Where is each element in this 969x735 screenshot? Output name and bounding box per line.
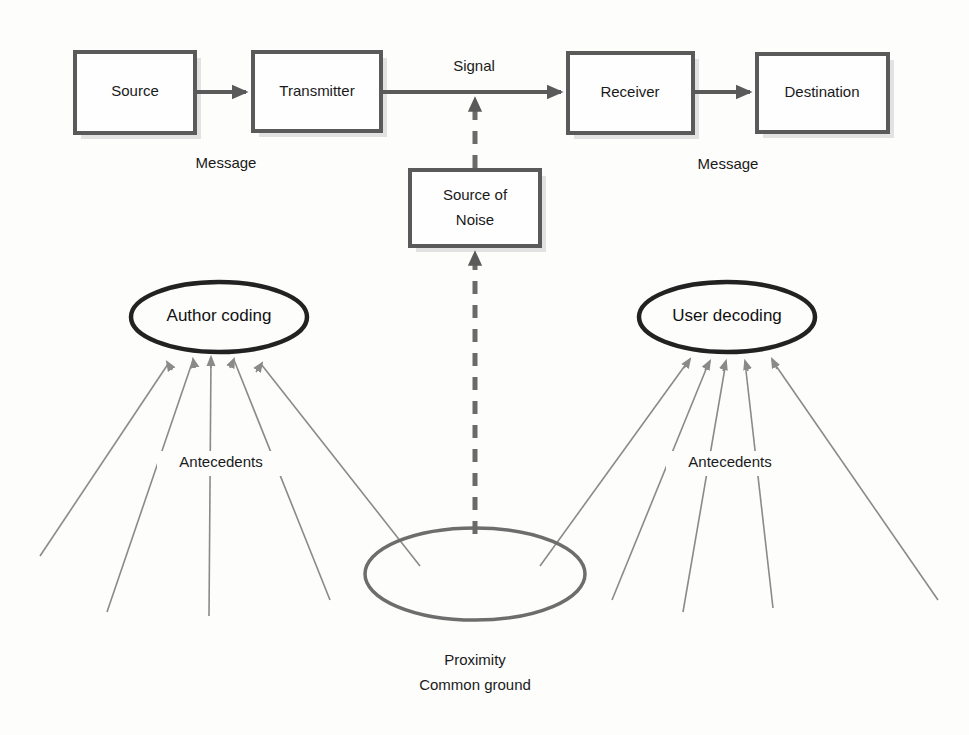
box-label-source: Source [111,82,159,99]
box-source-of-noise [410,170,540,246]
label-message-left: Message [196,154,257,171]
oval-label-user-decoding: User decoding [672,306,782,325]
box-label-transmitter: Transmitter [279,82,354,99]
antecedent-arrowheads-right [684,359,777,371]
antecedent-lines-right [540,360,938,612]
box-label-receiver: Receiver [600,83,659,100]
label-message-right: Message [698,155,759,172]
box-label-source-of-noise-line1: Source of [443,186,508,203]
antecedent-lines-left [40,358,420,616]
oval-proximity-common-ground [365,528,585,620]
diagram-canvas: Source Transmitter Receiver Destination … [0,0,969,735]
oval-label-author-coding: Author coding [167,306,272,325]
diagram-svg: Source Transmitter Receiver Destination … [0,0,969,735]
label-signal: Signal [453,57,495,74]
antecedent-arrowheads-left [167,357,262,372]
box-label-source-of-noise-line2: Noise [456,211,494,228]
label-proximity: Proximity [444,651,506,668]
free-labels: Signal Message Message Antecedents Antec… [157,55,794,693]
label-antecedents-right: Antecedents [688,453,771,470]
label-common-ground: Common ground [419,676,531,693]
box-label-destination: Destination [784,83,859,100]
label-antecedents-left: Antecedents [179,453,262,470]
